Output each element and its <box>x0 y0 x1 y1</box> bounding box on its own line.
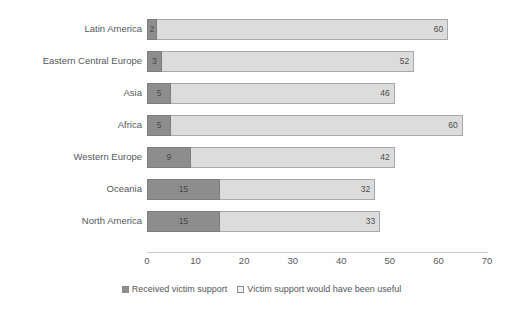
x-axis-tick: 50 <box>385 256 396 266</box>
stacked-bar[interactable]: 560 <box>147 115 463 136</box>
bar-row: 942 <box>147 142 487 174</box>
legend-label: Victim support would have been useful <box>247 285 401 294</box>
chart-legend: Received victim supportVictim support wo… <box>0 285 523 294</box>
category-label: Oceania <box>2 184 142 194</box>
plot-area: 26035254656094215321533 <box>147 14 487 252</box>
bar-value-label: 33 <box>362 217 379 226</box>
bar-row: 1533 <box>147 206 487 238</box>
bar-segment-received[interactable]: 15 <box>147 179 220 200</box>
category-label: Asia <box>2 88 142 98</box>
bar-value-label: 3 <box>148 57 161 66</box>
bar-row: 546 <box>147 78 487 110</box>
legend-item[interactable]: Victim support would have been useful <box>237 285 401 294</box>
stacked-bar-chart: Latin AmericaEastern Central EuropeAsiaA… <box>0 0 523 310</box>
category-label: North America <box>2 216 142 226</box>
legend-swatch-icon <box>122 286 129 293</box>
bar-segment-received[interactable]: 15 <box>147 211 220 232</box>
bar-segment-useful[interactable]: 33 <box>220 211 380 232</box>
bar-value-label: 42 <box>376 153 393 162</box>
bar-value-label: 52 <box>396 57 413 66</box>
legend-swatch-icon <box>237 286 244 293</box>
stacked-bar[interactable]: 1532 <box>147 179 375 200</box>
bar-segment-useful[interactable]: 46 <box>171 83 394 104</box>
bar-value-label: 60 <box>430 25 447 34</box>
x-axis-tick: 70 <box>482 256 493 266</box>
bar-row: 1532 <box>147 174 487 206</box>
bar-value-label: 15 <box>175 185 192 194</box>
bar-value-label: 32 <box>357 185 374 194</box>
bar-segment-useful[interactable]: 42 <box>191 147 395 168</box>
bar-value-label: 15 <box>175 217 192 226</box>
legend-label: Received victim support <box>132 285 228 294</box>
x-axis-tick-labels: 010203040506070 <box>147 256 488 272</box>
category-label: Western Europe <box>2 152 142 162</box>
x-axis-line <box>147 252 488 253</box>
category-axis: Latin AmericaEastern Central EuropeAsiaA… <box>0 14 142 252</box>
bar-segment-received[interactable]: 2 <box>147 19 157 40</box>
bar-segment-received[interactable]: 3 <box>147 51 162 72</box>
x-axis-tick: 0 <box>144 256 149 266</box>
bar-value-label: 5 <box>153 121 166 130</box>
bar-segment-useful[interactable]: 52 <box>162 51 415 72</box>
bar-segment-received[interactable]: 5 <box>147 115 171 136</box>
legend-item[interactable]: Received victim support <box>122 285 228 294</box>
stacked-bar[interactable]: 942 <box>147 147 395 168</box>
x-axis-tick: 30 <box>287 256 298 266</box>
bar-row: 260 <box>147 14 487 46</box>
x-axis-tick: 10 <box>190 256 201 266</box>
bar-segment-received[interactable]: 5 <box>147 83 171 104</box>
stacked-bar[interactable]: 260 <box>147 19 448 40</box>
stacked-bar[interactable]: 1533 <box>147 211 380 232</box>
bar-value-label: 60 <box>444 121 461 130</box>
stacked-bar[interactable]: 352 <box>147 51 414 72</box>
bar-segment-received[interactable]: 9 <box>147 147 191 168</box>
bar-segment-useful[interactable]: 60 <box>157 19 448 40</box>
category-label: Latin America <box>2 24 142 34</box>
bar-value-label: 46 <box>376 89 393 98</box>
bar-value-label: 5 <box>153 89 166 98</box>
bar-row: 352 <box>147 46 487 78</box>
x-axis-tick: 60 <box>433 256 444 266</box>
bar-row: 560 <box>147 110 487 142</box>
x-axis-tick: 40 <box>336 256 347 266</box>
bar-value-label: 9 <box>162 153 175 162</box>
category-label: Eastern Central Europe <box>2 56 142 66</box>
stacked-bar[interactable]: 546 <box>147 83 395 104</box>
x-axis-tick: 20 <box>239 256 250 266</box>
bar-segment-useful[interactable]: 32 <box>220 179 375 200</box>
category-label: Africa <box>2 120 142 130</box>
bar-segment-useful[interactable]: 60 <box>171 115 462 136</box>
